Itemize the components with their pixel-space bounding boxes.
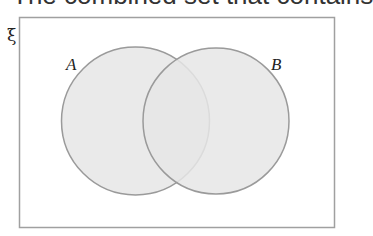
set-a-label: A bbox=[65, 55, 77, 74]
circle-b bbox=[143, 48, 289, 194]
set-b-label: B bbox=[271, 55, 282, 74]
universal-set-symbol: ξ bbox=[7, 25, 16, 45]
